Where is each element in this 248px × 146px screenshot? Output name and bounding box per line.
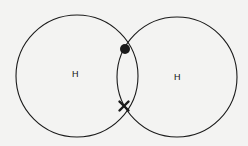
right-atom-label: H bbox=[174, 73, 181, 82]
shared-electron-dot-icon bbox=[120, 44, 130, 54]
hydrogen-molecule-diagram: H H bbox=[0, 0, 248, 146]
shared-electron-cross-icon bbox=[120, 102, 129, 111]
left-atom-label: H bbox=[72, 70, 79, 79]
diagram-svg bbox=[0, 0, 248, 146]
